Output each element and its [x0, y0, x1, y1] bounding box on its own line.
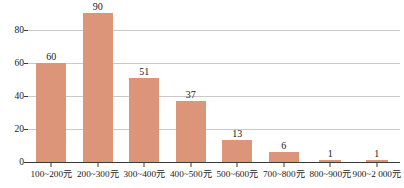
- bar-slot[interactable]: 13: [222, 140, 252, 162]
- x-axis-label: 400~500元: [170, 168, 212, 181]
- bar-value-label: 60: [46, 51, 56, 63]
- x-axis-label: 900~2 000元: [353, 168, 401, 181]
- bar-value-label: 90: [93, 1, 103, 13]
- bar[interactable]: [83, 13, 113, 162]
- x-tick-mark: [376, 162, 377, 167]
- x-tick-mark: [97, 162, 98, 167]
- bar-slot[interactable]: 90: [83, 13, 113, 162]
- bar-slot[interactable]: 1: [319, 160, 341, 162]
- bar-value-label: 37: [186, 89, 196, 101]
- x-axis-label: 200~300元: [77, 168, 119, 181]
- x-axis-label: 700~800元: [263, 168, 305, 181]
- bar[interactable]: [129, 78, 159, 162]
- bar[interactable]: [269, 152, 299, 162]
- x-tick-mark: [190, 162, 191, 167]
- x-tick-mark: [330, 162, 331, 167]
- bar-value-label: 13: [232, 128, 242, 140]
- x-axis-label: 500~600元: [216, 168, 258, 181]
- x-tick-mark: [51, 162, 52, 167]
- bar[interactable]: [176, 101, 206, 162]
- x-tick-mark: [144, 162, 145, 167]
- y-tick-label: 20: [3, 124, 24, 134]
- y-tick-label: 0: [3, 157, 24, 167]
- x-axis-line: [28, 162, 400, 163]
- bar-slot[interactable]: 51: [129, 78, 159, 162]
- x-axis-labels: 100~200元200~300元300~400元400~500元500~600元…: [28, 168, 400, 184]
- bar-value-label: 51: [139, 66, 149, 78]
- plot-area: 020406080 6090513713611: [28, 8, 400, 163]
- bar[interactable]: [222, 140, 252, 162]
- x-axis-label: 800~900元: [309, 168, 351, 181]
- y-tick-label: 60: [3, 58, 24, 68]
- bar[interactable]: [36, 63, 66, 162]
- bar-slot[interactable]: 60: [36, 63, 66, 162]
- bar-value-label: 1: [374, 148, 379, 160]
- bar-slot[interactable]: 1: [366, 160, 388, 162]
- bar-chart: 020406080 6090513713611 100~200元200~300元…: [0, 0, 404, 188]
- bars-group: 6090513713611: [28, 8, 400, 162]
- x-tick-mark: [283, 162, 284, 167]
- x-axis-label: 300~400元: [123, 168, 165, 181]
- bar-value-label: 1: [328, 148, 333, 160]
- bar-slot[interactable]: 6: [269, 152, 299, 162]
- bar-slot[interactable]: 37: [176, 101, 206, 162]
- x-tick-mark: [237, 162, 238, 167]
- y-tick-label: 40: [3, 91, 24, 101]
- x-axis-label: 100~200元: [30, 168, 72, 181]
- y-tick-label: 80: [3, 25, 24, 35]
- bar-value-label: 6: [281, 140, 286, 152]
